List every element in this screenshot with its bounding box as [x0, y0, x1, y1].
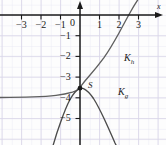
y-tick-label--3: −3 [60, 72, 71, 82]
x-tick-label--2: −2 [36, 20, 47, 30]
curve-label-kh: Kh [124, 53, 134, 66]
x-tick-label-1: 1 [97, 20, 102, 30]
curve-label-kg: Kg [118, 87, 128, 100]
intersection-point-marker [78, 86, 83, 91]
origin-label: 0 [70, 18, 75, 28]
curve-label-kh-base: K [124, 52, 131, 63]
x-tick-label--3: −3 [16, 20, 27, 30]
x-axis-name: x [157, 3, 161, 11]
y-tick-label--4: −4 [60, 93, 71, 103]
graph-figure: −3 −2 −1 1 2 3 0 −1 −2 −3 −4 −5 x Kh Kg … [0, 0, 166, 145]
x-tick-label-2: 2 [117, 20, 122, 30]
curve-label-kg-base: K [118, 86, 125, 97]
y-tick-label--2: −2 [60, 51, 71, 61]
intersection-point-label: S [88, 81, 93, 90]
x-tick-label--1: −1 [55, 20, 66, 30]
y-tick-label--1: −1 [60, 31, 71, 41]
curve-label-kg-sub: g [125, 92, 129, 100]
x-tick-label-3: 3 [136, 20, 141, 30]
y-tick-label--5: −5 [60, 113, 71, 123]
curve-label-kh-sub: h [131, 58, 135, 66]
